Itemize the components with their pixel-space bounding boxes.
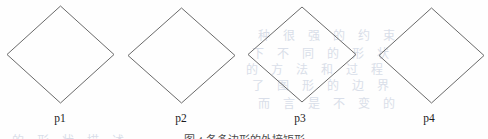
shape-label-p3: p3 [280,113,320,125]
shape-label-p2: p2 [161,113,201,125]
diamond-outline [128,8,235,103]
shape-label-p4: p4 [409,113,449,125]
shape-p3 [245,4,359,105]
figure-caption: 图 4 各多边形的外接矩形 [0,131,488,139]
diamond-outline [379,8,484,103]
diamond-icon [4,3,117,106]
diamond-outline [7,6,114,103]
diamond-icon [245,4,359,105]
shape-label-p1: p1 [40,113,80,125]
diamond-icon [125,5,238,106]
shapes-layer: p1p2p3p4 [0,0,488,139]
shape-p1 [4,3,117,106]
figure-container: 种 很 强 的 约 束下 不 同 的 形 状的 方 法 和 过 程了 图 形 的… [0,0,488,139]
diamond-icon [376,5,487,106]
diamond-outline [248,7,356,102]
shape-p4 [376,5,487,106]
shape-p2 [125,5,238,106]
